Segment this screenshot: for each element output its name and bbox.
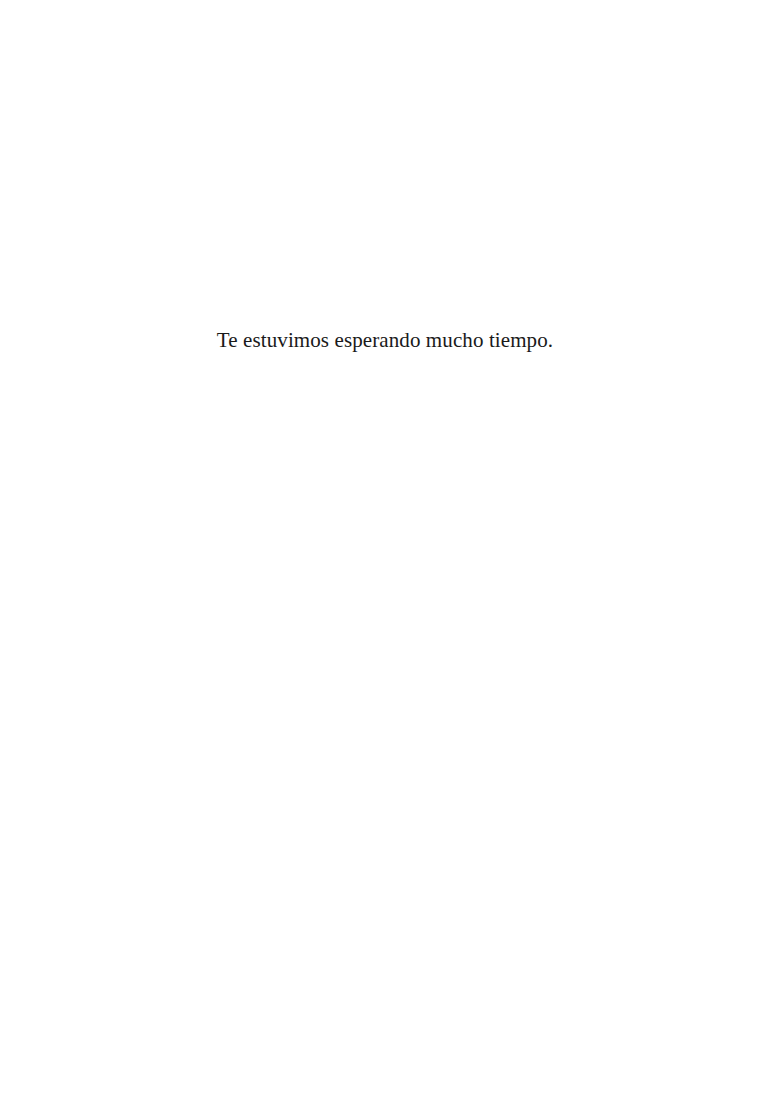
- epigraph-text: Te estuvimos esperando mucho tiempo.: [0, 326, 770, 354]
- document-page: Te estuvimos esperando mucho tiempo.: [0, 0, 770, 1097]
